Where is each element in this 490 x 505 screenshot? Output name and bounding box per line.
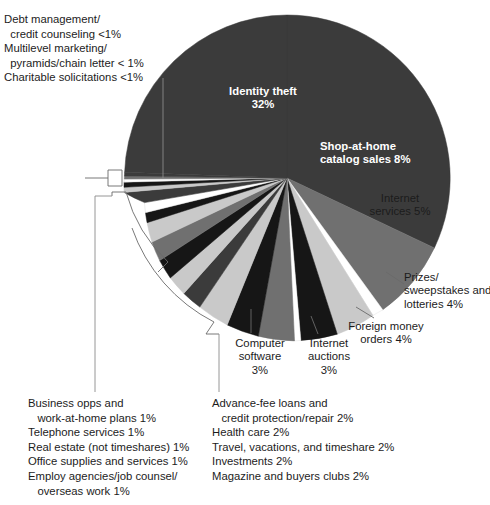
callout-bottom-left-line-0: Business opps and [28,396,189,411]
slice-label-internet-auctions: Internet auctions 3% [296,337,362,377]
slice-label-computer-software: Computer software 3% [222,337,298,377]
callout-bottom-left-line-6: overseas work 1% [28,484,189,499]
pie-chart-figure: Identity theft 32% Shop-at-home catalog … [0,0,490,505]
callout-top-left-line-2: Multilevel marketing/ [4,41,144,56]
callout-bottom-right-line-4: Investments 2% [212,454,394,469]
callout-top-left-line-4: Charitable solicitations <1% [4,70,144,85]
leader-top-left-bracket [108,170,122,186]
slice-label-internet-services: Internet services 5% [352,192,448,219]
callout-bottom-left-line-1: work-at-home plans 1% [28,411,189,426]
callout-bottom-right-line-1: credit protection/repair 2% [212,411,394,426]
callout-block-bottom-right: Advance-fee loans and credit protection/… [212,396,394,484]
leader-one-percent-elbow [95,196,112,392]
callout-block-bottom-left: Business opps and work-at-home plans 1%T… [28,396,189,498]
callout-bottom-right-line-2: Health care 2% [212,425,394,440]
slice-label-shop-at-home: Shop-at-home catalog sales 8% [320,140,444,167]
callout-bottom-right-line-5: Magazine and buyers clubs 2% [212,469,394,484]
callout-bottom-left-line-2: Telephone services 1% [28,425,189,440]
callout-bottom-left-line-3: Real estate (not timeshares) 1% [28,440,189,455]
callout-bottom-left-line-4: Office supplies and services 1% [28,454,189,469]
callout-top-left-line-3: pyramids/chain letter < 1% [4,56,144,71]
callout-bottom-left-line-5: Employ agencies/job counsel/ [28,469,189,484]
callout-bottom-right-line-0: Advance-fee loans and [212,396,394,411]
slice-label-prizes-sweepstakes: Prizes/ sweepstakes and lotteries 4% [404,271,490,311]
callout-block-top-left: Debt management/ credit counseling <1%Mu… [4,12,144,85]
slice-label-identity-theft: Identity theft 32% [203,85,323,112]
callout-bottom-right-line-3: Travel, vacations, and timeshare 2% [212,440,394,455]
callout-top-left-line-1: credit counseling <1% [4,27,144,42]
callout-top-left-line-0: Debt management/ [4,12,144,27]
